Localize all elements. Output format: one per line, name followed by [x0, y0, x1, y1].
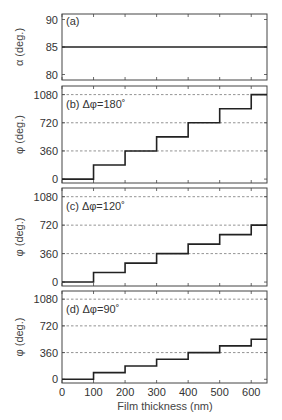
y-tick-label: 80: [46, 69, 58, 81]
y-tick-label: 0: [52, 373, 58, 385]
panel-a: 808590α (deg.)(a): [13, 14, 267, 81]
y-tick-label: 720: [40, 219, 58, 231]
x-tick-label: 500: [211, 386, 229, 398]
y-tick-label: 1080: [34, 89, 58, 101]
y-tick-label: 1080: [34, 191, 58, 203]
x-tick-label: 400: [179, 386, 197, 398]
y-axis-title: φ (deg.): [13, 115, 25, 154]
y-tick-label: 360: [40, 145, 58, 157]
panel-label: (b) Δφ=180˚: [66, 98, 125, 110]
x-axis-tick-labels: 0100200300400500600: [59, 386, 260, 398]
x-tick-label: 600: [242, 386, 260, 398]
panel-label: (c) Δφ=120˚: [66, 200, 125, 212]
data-series: [62, 339, 267, 379]
y-axis-title: α (deg.): [13, 28, 25, 66]
y-tick-label: 85: [46, 41, 58, 53]
panel-label: (d) Δφ=90˚: [66, 303, 119, 315]
x-tick-label: 0: [59, 386, 65, 398]
y-tick-label: 360: [40, 248, 58, 260]
y-tick-label: 1080: [34, 293, 58, 305]
x-tick-label: 300: [147, 386, 165, 398]
y-tick-label: 720: [40, 320, 58, 332]
x-tick-label: 100: [84, 386, 102, 398]
x-axis-title: Film thickness (nm): [117, 400, 212, 412]
y-tick-label: 90: [46, 14, 58, 26]
y-axis-title: φ (deg.): [13, 218, 25, 257]
panel-d: 03607201080φ (deg.)(d) Δφ=90˚: [13, 291, 267, 385]
figure: 808590α (deg.)(a)03607201080φ (deg.)(b) …: [0, 0, 282, 420]
panel-c: 03607201080φ (deg.)(c) Δφ=120˚: [13, 188, 267, 288]
data-series: [62, 225, 267, 282]
y-tick-label: 360: [40, 347, 58, 359]
x-tick-label: 200: [116, 386, 134, 398]
y-axis-title: φ (deg.): [13, 318, 25, 357]
panel-label: (a): [66, 15, 79, 27]
y-tick-label: 0: [52, 173, 58, 185]
y-tick-label: 0: [52, 276, 58, 288]
panel-b: 03607201080φ (deg.)(b) Δφ=180˚: [13, 86, 267, 185]
y-tick-label: 720: [40, 117, 58, 129]
